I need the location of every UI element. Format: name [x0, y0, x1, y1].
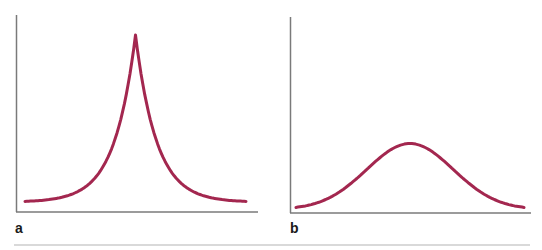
chart-a	[16, 15, 258, 212]
bottom-divider	[14, 244, 530, 246]
chart-b-curve	[296, 144, 524, 208]
chart-b	[290, 17, 531, 213]
figure-canvas	[0, 0, 542, 250]
chart-a-curve	[25, 35, 246, 201]
panel-label-a: a	[15, 220, 23, 236]
panel-label-b: b	[290, 220, 299, 236]
